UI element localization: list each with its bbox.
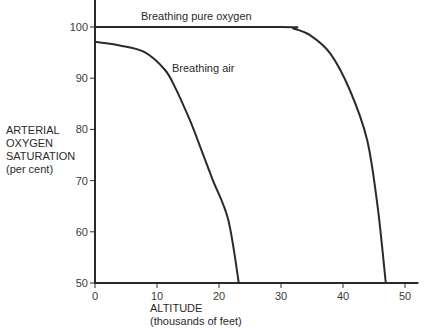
x-tick-label: 50	[399, 290, 411, 302]
x-tick-label: 30	[275, 290, 287, 302]
y-axis-title-line-2: OXYGEN	[6, 137, 75, 150]
y-tick-label: 50	[76, 277, 88, 289]
y-tick-label: 80	[76, 123, 88, 135]
x-tick-label: 0	[92, 290, 98, 302]
x-tick-label: 40	[337, 290, 349, 302]
series-line-breathing-pure-oxygen	[95, 27, 386, 283]
y-axis-title-line-1: ARTERIAL	[6, 124, 75, 137]
x-tick-label: 20	[213, 290, 225, 302]
y-axis-title-line-4: (per cent)	[6, 163, 75, 176]
series-label-breathing-air: Breathing air	[172, 62, 235, 74]
x-axis-title-main: ALTITUDE	[150, 302, 242, 315]
x-axis-title: ALTITUDE (thousands of feet)	[150, 302, 242, 328]
y-tick-label: 70	[76, 175, 88, 187]
y-tick-label: 60	[76, 226, 88, 238]
y-axis-title-line-3: SATURATION	[6, 150, 75, 163]
series-line-breathing-air	[95, 42, 239, 283]
y-axis-title: ARTERIAL OXYGEN SATURATION (per cent)	[6, 124, 75, 176]
axis-ticks: 506070809010001020304050	[70, 21, 411, 302]
x-tick-label: 10	[151, 290, 163, 302]
y-tick-label: 90	[76, 72, 88, 84]
series-label-breathing-pure-oxygen: Breathing pure oxygen	[141, 10, 252, 22]
x-axis-title-sub: (thousands of feet)	[150, 315, 242, 328]
y-tick-label: 100	[70, 21, 88, 33]
axes	[94, 0, 418, 284]
data-series: Breathing pure oxygenBreathing air	[95, 10, 386, 283]
